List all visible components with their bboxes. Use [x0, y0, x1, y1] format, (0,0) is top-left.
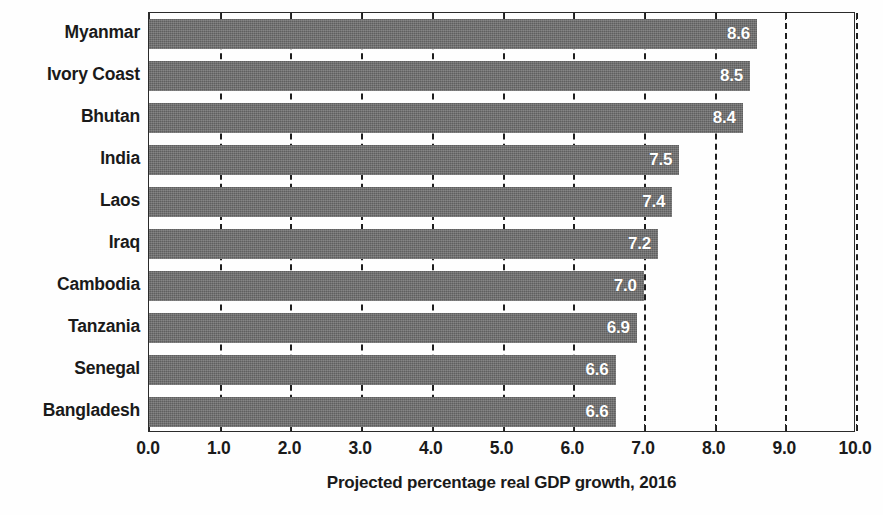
- x-tick-label: 9.0: [773, 438, 796, 459]
- category-label: Bhutan: [0, 106, 140, 127]
- bar[interactable]: 7.5: [149, 145, 679, 175]
- bar[interactable]: 8.4: [149, 103, 743, 133]
- bar[interactable]: 6.6: [149, 355, 616, 385]
- x-tick-label: 5.0: [490, 438, 513, 459]
- x-axis-title: Projected percentage real GDP growth, 20…: [148, 473, 855, 493]
- x-tick-label: 3.0: [348, 438, 371, 459]
- category-label: Senegal: [0, 358, 140, 379]
- bar-value-label: 8.4: [713, 108, 743, 128]
- category-label: Laos: [0, 190, 140, 211]
- bar[interactable]: 7.4: [149, 187, 672, 217]
- category-label: Iraq: [0, 232, 140, 253]
- x-tick-label: 6.0: [560, 438, 583, 459]
- bar-value-label: 8.5: [720, 66, 750, 86]
- x-tick-label: 1.0: [207, 438, 230, 459]
- gdp-growth-bar-chart: MyanmarIvory CoastBhutanIndiaLaosIraqCam…: [0, 0, 883, 515]
- x-tick-label: 0.0: [136, 438, 159, 459]
- category-axis: MyanmarIvory CoastBhutanIndiaLaosIraqCam…: [0, 12, 140, 432]
- category-label: India: [0, 148, 140, 169]
- axis-tick: [856, 424, 857, 431]
- gridline: [856, 13, 858, 431]
- x-tick-label: 8.0: [702, 438, 725, 459]
- category-label: Tanzania: [0, 316, 140, 337]
- x-tick-label: 7.0: [631, 438, 654, 459]
- x-tick-label: 2.0: [278, 438, 301, 459]
- bar[interactable]: 7.2: [149, 229, 658, 259]
- axis-tick: [856, 13, 857, 20]
- bar[interactable]: 7.0: [149, 271, 644, 301]
- bar-value-label: 6.6: [586, 360, 616, 380]
- bar-value-label: 7.4: [642, 192, 672, 212]
- bar-value-label: 7.0: [614, 276, 644, 296]
- bar[interactable]: 6.6: [149, 397, 616, 427]
- bar-value-label: 7.5: [649, 150, 679, 170]
- bar[interactable]: 8.6: [149, 19, 757, 49]
- bar-value-label: 6.6: [586, 402, 616, 422]
- x-tick-label: 4.0: [419, 438, 442, 459]
- x-tick-label: 10.0: [839, 438, 872, 459]
- x-axis-tick-labels: 0.01.02.03.04.05.06.07.08.09.010.0: [148, 438, 855, 468]
- bar[interactable]: 8.5: [149, 61, 750, 91]
- category-label: Cambodia: [0, 274, 140, 295]
- bars-layer: 8.68.58.47.57.47.27.06.96.66.6: [149, 13, 854, 431]
- plot-area: 8.68.58.47.57.47.27.06.96.66.6: [148, 12, 855, 432]
- bar-value-label: 7.2: [628, 234, 658, 254]
- bar[interactable]: 6.9: [149, 313, 637, 343]
- category-label: Bangladesh: [0, 400, 140, 421]
- bar-value-label: 6.9: [607, 318, 637, 338]
- category-label: Myanmar: [0, 22, 140, 43]
- category-label: Ivory Coast: [0, 64, 140, 85]
- bar-value-label: 8.6: [727, 24, 757, 44]
